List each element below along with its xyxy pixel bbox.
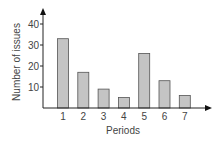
x-tick-label: 2: [81, 111, 87, 122]
x-tick-label: 3: [101, 111, 107, 122]
bar-period-4: [118, 98, 129, 109]
y-axis-arrow-icon: [40, 8, 46, 15]
bar-period-7: [179, 95, 190, 108]
x-tick-label: 5: [141, 111, 147, 122]
bar-period-3: [98, 89, 109, 108]
x-tick-label: 4: [121, 111, 127, 122]
y-axis-label: Number of issues: [11, 23, 22, 101]
x-tick-label: 6: [162, 111, 168, 122]
x-axis-arrow-icon: [205, 105, 212, 111]
bars: [58, 39, 191, 108]
y-tick-label: 20: [28, 61, 40, 72]
bar-period-1: [58, 39, 69, 108]
y-ticks: 10203040: [28, 19, 43, 93]
bar-chart: 10203040 1234567 Periods Number of issue…: [0, 0, 221, 142]
y-tick-label: 40: [28, 19, 40, 30]
x-axis-label: Periods: [106, 125, 140, 136]
x-tick-label: 1: [60, 111, 66, 122]
y-tick-label: 10: [28, 82, 40, 93]
x-ticks: 1234567: [60, 111, 188, 122]
bar-period-5: [139, 53, 150, 108]
y-tick-label: 30: [28, 40, 40, 51]
bar-period-2: [78, 72, 89, 108]
bar-period-6: [159, 81, 170, 108]
x-tick-label: 7: [182, 111, 188, 122]
